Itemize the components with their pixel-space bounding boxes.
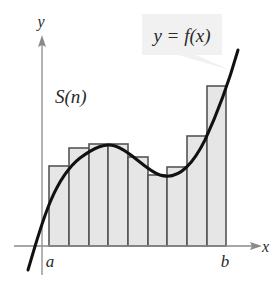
rectangle-1 <box>49 166 69 246</box>
rectangle-5 <box>128 157 148 246</box>
rectangle-2 <box>69 148 89 246</box>
riemann-sum-figure: y = f(x) y x S(n) a b <box>0 0 276 287</box>
callout-pointer <box>178 55 230 70</box>
right-endpoint-label: b <box>221 252 230 271</box>
rectangle-3 <box>89 144 108 246</box>
left-endpoint-label: a <box>46 252 55 271</box>
x-axis-label: x <box>261 238 269 255</box>
upper-sum-rectangles <box>49 86 226 246</box>
rectangle-7 <box>167 167 187 246</box>
function-label-callout: y = f(x) <box>142 14 230 70</box>
function-label: y = f(x) <box>151 25 210 47</box>
rectangle-4 <box>108 144 128 246</box>
rectangle-6 <box>148 175 167 246</box>
y-axis-label: y <box>35 13 45 31</box>
sum-label: S(n) <box>55 86 87 108</box>
